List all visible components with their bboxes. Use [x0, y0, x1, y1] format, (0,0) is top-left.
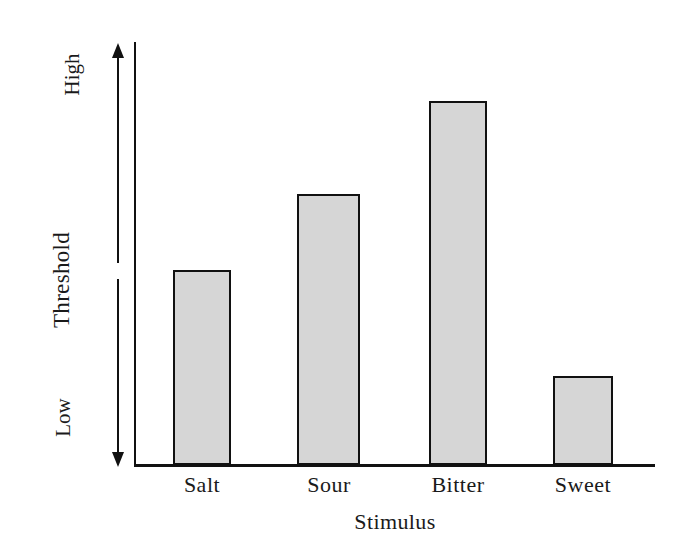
bar-sweet — [553, 376, 613, 465]
y-axis-title: Threshold — [49, 200, 75, 360]
arrow-up-icon — [112, 43, 124, 58]
plot-area — [135, 42, 655, 465]
bar-bitter — [429, 101, 487, 465]
x-axis-tick-labels: Salt Sour Bitter Sweet — [135, 472, 655, 502]
y-axis-low-label: Low — [51, 338, 76, 498]
x-tick-label-sour: Sour — [269, 472, 389, 498]
x-tick-label-salt: Salt — [142, 472, 262, 498]
bar-sour — [297, 194, 360, 465]
y-axis-high-label: High — [60, 0, 85, 155]
x-axis-title: Stimulus — [135, 509, 655, 535]
x-tick-label-bitter: Bitter — [398, 472, 518, 498]
x-tick-label-sweet: Sweet — [523, 472, 643, 498]
arrow-shaft-upper — [117, 57, 119, 263]
threshold-bar-chart: High Low Threshold Salt Sour Bitter Swee… — [0, 0, 691, 559]
bar-salt — [173, 270, 231, 465]
arrow-shaft-lower — [117, 279, 119, 455]
arrow-down-icon — [112, 452, 124, 467]
